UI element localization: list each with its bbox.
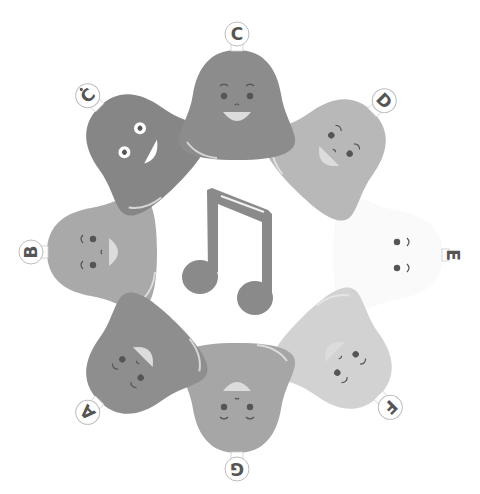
bell-c — [179, 44, 295, 160]
bell-ring-illustration: EFDGBACC — [0, 0, 480, 494]
note-letter: C — [231, 24, 243, 44]
note-letter: E — [443, 249, 463, 261]
note-label-c: C — [225, 22, 249, 46]
note-label-b: B — [19, 240, 43, 264]
beamed-eighth-notes-icon — [182, 188, 273, 315]
note-letter: G — [230, 459, 244, 479]
bell-a — [54, 282, 218, 446]
note-label-e: E — [443, 249, 463, 261]
note-letter: B — [21, 246, 41, 259]
note-label-g: G — [225, 457, 249, 481]
bell-body — [179, 50, 295, 160]
